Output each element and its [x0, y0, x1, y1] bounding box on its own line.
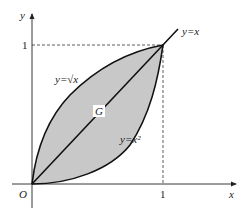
line-label: y=x: [181, 25, 199, 37]
square-curve-label: y=x²: [119, 133, 141, 145]
origin-label: O: [19, 188, 27, 200]
y-axis-label: y: [19, 9, 25, 21]
sqrt-curve-label: y=√x: [54, 73, 78, 85]
y-tick-label: 1: [22, 39, 28, 51]
coordinate-plot: y x O 1 1 y=x y=√x y=x² G: [0, 0, 245, 222]
diagram-canvas: y x O 1 1 y=x y=√x y=x² G: [0, 0, 245, 222]
x-axis-label: x: [228, 188, 234, 200]
region-label: G: [95, 105, 103, 117]
x-tick-label: 1: [160, 188, 166, 200]
